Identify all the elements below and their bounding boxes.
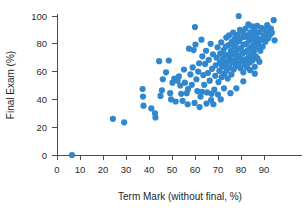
data-point	[187, 71, 193, 77]
data-point	[271, 37, 277, 43]
data-point	[69, 152, 75, 158]
x-tick-label: 90	[259, 164, 270, 175]
data-point	[203, 48, 209, 54]
data-point	[227, 90, 233, 96]
y-tick-label: 0	[42, 150, 47, 161]
data-point	[191, 47, 197, 53]
y-tick-label: 40	[36, 94, 47, 105]
y-axis-title: Final Exam (%)	[5, 51, 16, 119]
y-tick-label: 20	[36, 122, 47, 133]
x-tick-label: 50	[167, 164, 178, 175]
chart-canvas: 0102030405060708090 020406080100 Term Ma…	[0, 0, 307, 210]
data-point	[197, 104, 203, 110]
data-point	[256, 59, 262, 65]
x-tick-label: 70	[213, 164, 224, 175]
data-point	[199, 53, 205, 59]
data-point	[240, 78, 246, 84]
data-point	[221, 85, 227, 91]
data-point	[198, 37, 204, 43]
data-point	[185, 101, 191, 107]
x-tick-label: 40	[144, 164, 155, 175]
data-point	[247, 67, 253, 73]
x-axis-title: Term Mark (without final, %)	[118, 191, 242, 202]
data-point	[160, 76, 166, 82]
data-point	[199, 89, 205, 95]
data-point	[157, 93, 163, 99]
x-tick-label: 30	[121, 164, 132, 175]
data-point	[176, 73, 182, 79]
y-tick-label: 60	[36, 66, 47, 77]
data-point	[181, 66, 187, 72]
data-point	[212, 73, 218, 79]
data-point	[178, 91, 184, 97]
data-point	[192, 41, 198, 47]
data-point	[156, 58, 162, 64]
data-point	[196, 60, 202, 66]
x-tick-label: 20	[98, 164, 109, 175]
data-point	[169, 80, 175, 86]
data-point	[139, 86, 145, 92]
y-axis-ticks: 020406080100	[31, 11, 57, 161]
data-point	[152, 114, 158, 120]
data-point	[210, 101, 216, 107]
data-point	[140, 103, 146, 109]
data-point	[191, 100, 197, 106]
data-point	[207, 78, 213, 84]
data-point	[271, 17, 277, 23]
data-point	[192, 24, 198, 30]
data-point	[218, 39, 224, 45]
data-point	[166, 57, 172, 63]
data-point	[269, 30, 275, 36]
data-point	[163, 69, 169, 75]
data-point	[203, 100, 209, 106]
data-point	[140, 94, 146, 100]
x-tick-label: 60	[190, 164, 201, 175]
data-point	[110, 116, 116, 122]
data-point	[208, 41, 214, 47]
x-tick-label: 0	[54, 164, 59, 175]
data-point	[206, 57, 212, 63]
y-tick-label: 80	[36, 38, 47, 49]
data-point	[159, 87, 165, 93]
data-point	[195, 69, 201, 75]
data-point	[185, 86, 191, 92]
data-point	[190, 64, 196, 70]
data-point	[182, 80, 188, 86]
data-point	[179, 98, 185, 104]
data-point	[233, 85, 239, 91]
data-points-layer	[69, 13, 278, 158]
data-point	[121, 119, 127, 125]
scatter-plot-figure: 0102030405060708090 020406080100 Term Ma…	[0, 0, 307, 210]
data-point	[201, 82, 207, 88]
y-tick-label: 100	[31, 11, 47, 22]
data-point	[173, 98, 179, 104]
x-tick-label: 10	[75, 164, 86, 175]
data-point	[236, 13, 242, 19]
data-point	[218, 96, 224, 102]
data-point	[167, 90, 173, 96]
x-axis-ticks: 0102030405060708090	[54, 155, 269, 175]
data-point	[208, 91, 214, 97]
data-point	[193, 76, 199, 82]
x-tick-label: 80	[236, 164, 247, 175]
